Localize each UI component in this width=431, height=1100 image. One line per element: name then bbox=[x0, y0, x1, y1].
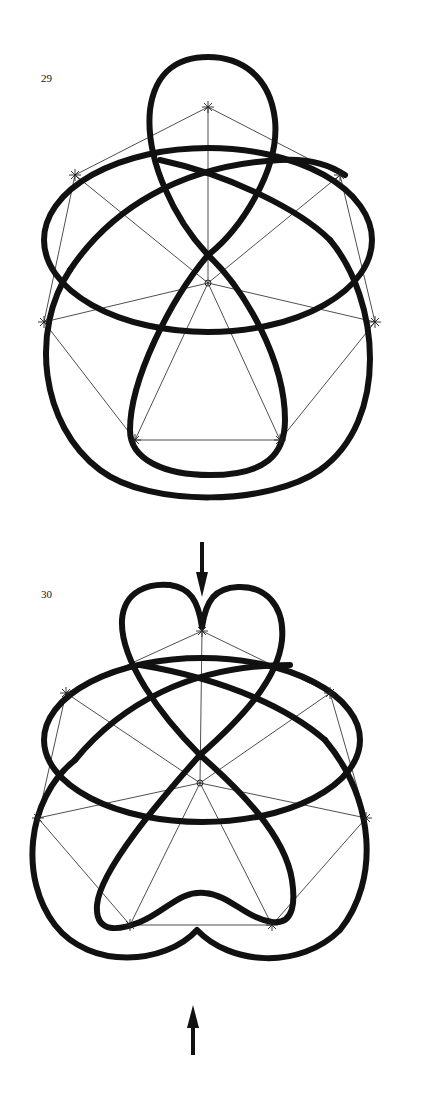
guide-polygon bbox=[44, 107, 375, 440]
arrow-up bbox=[187, 1005, 199, 1055]
figure-29 bbox=[38, 57, 381, 497]
guide-spokes bbox=[44, 107, 375, 440]
figure-30 bbox=[32, 542, 372, 1055]
knot-diagrams bbox=[0, 0, 431, 1100]
knot-curve bbox=[32, 585, 366, 958]
arrow-down bbox=[196, 542, 208, 597]
vertex-markers bbox=[38, 101, 381, 446]
vertex-markers bbox=[32, 625, 372, 931]
